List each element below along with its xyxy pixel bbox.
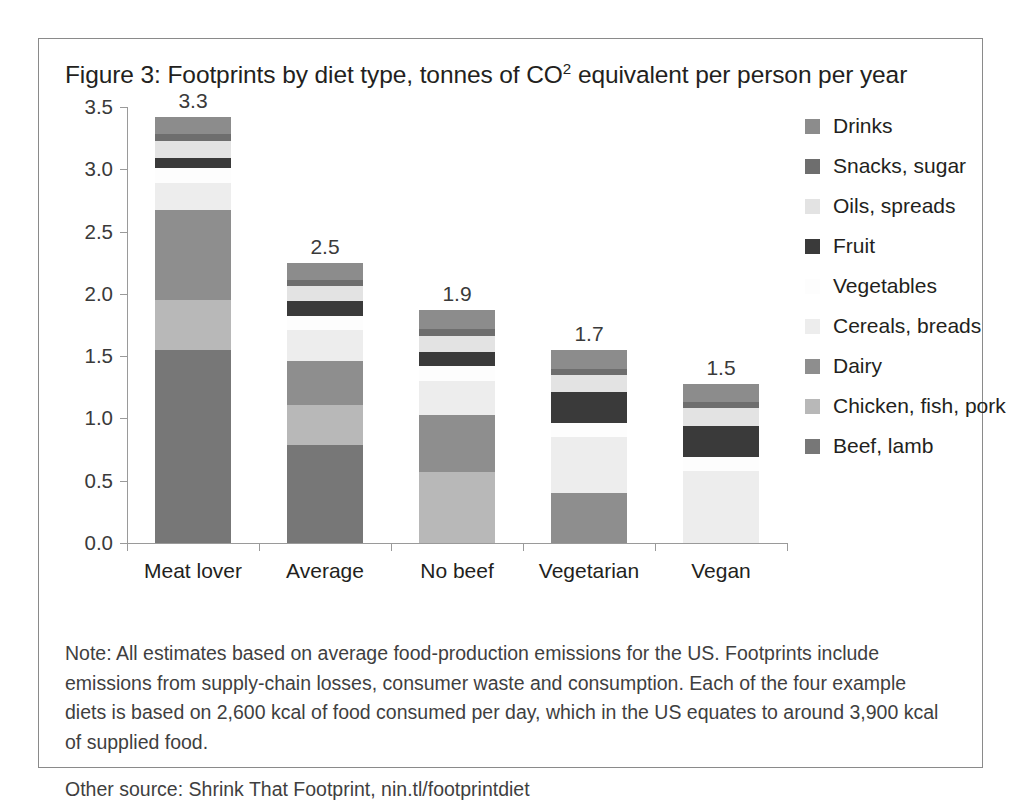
figure-title-superscript: 2 [563,60,571,77]
bar-group-meat-lover[interactable]: 3.3 [155,117,231,543]
legend-item-chicken_fish_pork[interactable]: Chicken, fish, pork [805,395,1006,417]
legend-item-vegetables[interactable]: Vegetables [805,275,937,297]
bar-segment-vegetables[interactable] [287,316,363,330]
bar-total-label: 1.9 [377,282,537,306]
legend-label: Dairy [833,354,882,378]
y-axis-tick-label: 1.0 [85,406,114,430]
bar-segment-vegetables[interactable] [551,423,627,437]
y-axis-tick-label: 0.5 [85,469,114,493]
x-axis-tick-mark [787,543,788,551]
x-axis-tick-mark [655,543,656,551]
bar-segment-chicken_fish_pork[interactable] [155,300,231,350]
bar-group-average[interactable]: 2.5 [287,263,363,543]
bar-total-label: 3.3 [113,89,273,113]
y-axis-line [127,107,128,543]
legend-swatch-icon-drinks [805,119,820,134]
legend-item-oils_spreads[interactable]: Oils, spreads [805,195,956,217]
bar-segment-cereals_breads[interactable] [551,437,627,493]
bar-segment-snacks_sugar[interactable] [419,329,495,336]
bar-segment-beef_lamb[interactable] [287,445,363,543]
y-axis-tick-mark [120,418,128,419]
bar-group-vegetarian[interactable]: 1.7 [551,350,627,543]
bar-stack [155,117,231,543]
bar-segment-fruit[interactable] [551,392,627,423]
bar-segment-vegetables[interactable] [683,457,759,471]
bar-segment-oils_spreads[interactable] [419,336,495,352]
figure-notes: Note: All estimates based on average foo… [65,639,945,801]
bar-group-vegan[interactable]: 1.5 [683,384,759,543]
legend-label: Cereals, breads [833,314,981,338]
y-axis-tick-label: 2.0 [85,282,114,306]
bar-segment-fruit[interactable] [155,158,231,168]
bar-stack [419,310,495,543]
bar-segment-vegetables[interactable] [419,366,495,381]
bar-segment-drinks[interactable] [155,117,231,134]
bar-segment-cereals_breads[interactable] [287,330,363,361]
y-axis-tick-mark [120,294,128,295]
legend-item-drinks[interactable]: Drinks [805,115,893,137]
bar-segment-fruit[interactable] [683,426,759,457]
legend-swatch-icon-cereals_breads [805,319,820,334]
legend-label: Beef, lamb [833,434,933,458]
legend-swatch-icon-oils_spreads [805,199,820,214]
bar-segment-cereals_breads[interactable] [683,471,759,543]
bar-segment-dairy[interactable] [551,493,627,543]
other-source-text: Other source: Shrink That Footprint, nin… [65,778,945,801]
bar-segment-oils_spreads[interactable] [551,375,627,392]
legend-item-beef_lamb[interactable]: Beef, lamb [805,435,933,457]
bar-segment-drinks[interactable] [551,350,627,369]
legend-swatch-icon-snacks_sugar [805,159,820,174]
legend-label: Oils, spreads [833,194,956,218]
legend-item-fruit[interactable]: Fruit [805,235,875,257]
bar-segment-cereals_breads[interactable] [155,183,231,210]
bar-segment-drinks[interactable] [683,384,759,403]
bar-segment-oils_spreads[interactable] [287,286,363,301]
bar-total-label: 1.7 [509,322,669,346]
legend-swatch-icon-vegetables [805,279,820,294]
legend-label: Vegetables [833,274,937,298]
bar-stack [551,350,627,543]
bar-segment-dairy[interactable] [287,361,363,405]
legend-item-cereals_breads[interactable]: Cereals, breads [805,315,981,337]
bar-group-no-beef[interactable]: 1.9 [419,310,495,543]
bar-segment-chicken_fish_pork[interactable] [419,472,495,543]
x-axis-tick-mark [523,543,524,551]
bar-segment-dairy[interactable] [155,210,231,300]
bar-segment-vegetables[interactable] [155,168,231,183]
bar-segment-drinks[interactable] [287,263,363,280]
legend-label: Drinks [833,114,893,138]
x-axis-tick-mark [391,543,392,551]
figure-frame: Figure 3: Footprints by diet type, tonne… [38,38,983,768]
bar-segment-beef_lamb[interactable] [155,350,231,543]
figure-title-suffix: equivalent per person per year [571,61,907,88]
bar-segment-fruit[interactable] [419,352,495,366]
legend-item-snacks_sugar[interactable]: Snacks, sugar [805,155,966,177]
y-axis-tick-mark [120,232,128,233]
y-axis-tick-label: 0.0 [85,531,114,555]
bar-segment-cereals_breads[interactable] [419,381,495,415]
x-axis-tick-mark [259,543,260,551]
y-axis-labels: 0.00.51.01.52.02.53.03.5 [65,107,119,553]
bar-total-label: 2.5 [245,235,405,259]
bar-segment-chicken_fish_pork[interactable] [287,405,363,445]
x-axis-tick-mark [127,543,128,551]
legend-swatch-icon-chicken_fish_pork [805,399,820,414]
y-axis-tick-label: 2.5 [85,220,114,244]
y-axis-tick-label: 3.0 [85,157,114,181]
bar-segment-drinks[interactable] [419,310,495,329]
bar-segment-oils_spreads[interactable] [155,141,231,158]
legend-label: Chicken, fish, pork [833,394,1006,418]
bar-segment-oils_spreads[interactable] [683,408,759,425]
x-axis-line [127,543,787,544]
chart-plot-area: 0.00.51.01.52.02.53.03.5 3.3Meat lover2.… [65,107,957,617]
bar-segment-dairy[interactable] [419,415,495,472]
y-axis-tick-mark [120,481,128,482]
bar-segment-fruit[interactable] [287,301,363,316]
y-axis-tick-mark [120,169,128,170]
chart-axes: 3.3Meat lover2.5Average1.9No beef1.7Vege… [127,107,787,553]
legend-label: Fruit [833,234,875,258]
y-axis-tick-label: 1.5 [85,344,114,368]
legend-swatch-icon-fruit [805,239,820,254]
legend-item-dairy[interactable]: Dairy [805,355,882,377]
y-axis-tick-label: 3.5 [85,95,114,119]
